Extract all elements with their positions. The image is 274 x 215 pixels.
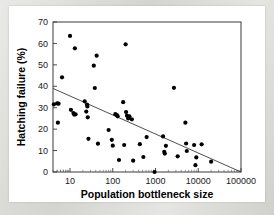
data-point (183, 121, 187, 125)
data-point (200, 142, 204, 146)
data-point (209, 160, 213, 164)
data-point (73, 46, 77, 50)
data-point (131, 159, 135, 163)
data-point (124, 42, 128, 46)
scatter-plot: 10100100010000100000 010203040506070 Pop… (9, 6, 265, 202)
y-tick-label: 20 (38, 124, 48, 134)
x-tick-label: 100000 (226, 176, 256, 186)
figure-root: 10100100010000100000 010203040506070 Pop… (0, 0, 274, 215)
data-point (192, 143, 196, 147)
data-point (111, 144, 115, 148)
x-axis-ticks (53, 168, 241, 172)
data-point (95, 54, 99, 58)
x-tick-label: 10 (65, 176, 75, 186)
data-point (73, 112, 77, 116)
data-point (117, 158, 121, 162)
data-point (164, 144, 168, 148)
data-points (52, 34, 213, 174)
data-point (194, 155, 198, 159)
data-point (122, 143, 126, 147)
data-point (86, 115, 90, 119)
data-point (172, 86, 176, 90)
data-point (161, 134, 165, 138)
y-tick-label: 70 (38, 17, 48, 27)
data-point (85, 104, 89, 108)
data-point (121, 100, 125, 104)
data-point (141, 155, 145, 159)
data-point (163, 151, 167, 155)
axes-frame (53, 22, 241, 172)
data-point (83, 99, 87, 103)
x-axis-title: Population bottleneck size (81, 188, 214, 200)
x-tick-label: 1000 (145, 176, 165, 186)
data-point (86, 137, 90, 141)
data-point (152, 170, 156, 174)
x-axis-tick-labels: 10100100010000100000 (65, 176, 256, 186)
data-point (185, 149, 189, 153)
y-tick-label: 60 (38, 39, 48, 49)
y-tick-label: 10 (38, 146, 48, 156)
data-point (145, 135, 149, 139)
y-axis-title: Hatching failure (%) (15, 48, 27, 147)
data-point (93, 86, 97, 90)
data-point (176, 154, 180, 158)
data-point (84, 109, 88, 113)
regression-line (53, 88, 241, 172)
data-point (184, 141, 188, 145)
y-axis-ticks (53, 22, 57, 172)
data-point (130, 117, 134, 121)
data-point (96, 142, 100, 146)
data-point (110, 138, 114, 142)
data-point (56, 121, 60, 125)
data-point (60, 75, 64, 79)
y-tick-label: 40 (38, 81, 48, 91)
data-point (193, 163, 197, 167)
data-point (107, 128, 111, 132)
data-point (56, 102, 60, 106)
data-point (124, 110, 128, 114)
data-point (92, 64, 96, 68)
data-point (116, 114, 120, 118)
y-tick-label: 30 (38, 103, 48, 113)
data-point (68, 34, 72, 38)
x-tick-label: 100 (105, 176, 120, 186)
y-tick-label: 50 (38, 60, 48, 70)
data-point (138, 142, 142, 146)
chart-canvas: 10100100010000100000 010203040506070 Pop… (9, 6, 265, 202)
x-tick-label: 10000 (186, 176, 211, 186)
figure-card: 10100100010000100000 010203040506070 Pop… (9, 6, 265, 202)
y-axis-tick-labels: 010203040506070 (38, 17, 48, 177)
y-tick-label: 0 (43, 167, 48, 177)
